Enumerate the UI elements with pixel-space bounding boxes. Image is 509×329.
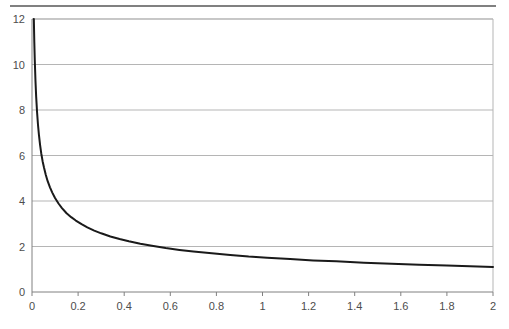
y-tick-label-8: 8 xyxy=(19,104,25,116)
y-tick-labels-group: 024681012 xyxy=(13,13,25,298)
x-tick-label-1.6: 1.6 xyxy=(393,300,408,312)
x-tick-marks-group xyxy=(32,292,493,296)
y-tick-label-2: 2 xyxy=(19,241,25,253)
x-tick-label-1.8: 1.8 xyxy=(439,300,454,312)
chart-figure: 024681012 00.20.40.60.811.21.41.61.82 xyxy=(0,0,509,329)
x-tick-label-0: 0 xyxy=(29,300,35,312)
y-tick-label-4: 4 xyxy=(19,195,25,207)
x-tick-label-0.4: 0.4 xyxy=(117,300,132,312)
y-tick-label-12: 12 xyxy=(13,13,25,25)
line-chart-svg: 024681012 00.20.40.60.811.21.41.61.82 xyxy=(0,0,509,329)
data-series-group xyxy=(34,19,493,267)
plot-area-wrapper: 024681012 00.20.40.60.811.21.41.61.82 xyxy=(0,0,509,329)
x-tick-label-0.6: 0.6 xyxy=(163,300,178,312)
x-tick-labels-group: 00.20.40.60.811.21.41.61.82 xyxy=(29,300,496,312)
x-tick-label-1.2: 1.2 xyxy=(301,300,316,312)
series-line-curve xyxy=(34,19,493,267)
x-tick-label-1: 1 xyxy=(259,300,265,312)
y-tick-label-6: 6 xyxy=(19,150,25,162)
y-tick-label-0: 0 xyxy=(19,286,25,298)
x-tick-label-0.8: 0.8 xyxy=(209,300,224,312)
x-tick-label-1.4: 1.4 xyxy=(347,300,362,312)
x-tick-label-0.2: 0.2 xyxy=(70,300,85,312)
y-tick-label-10: 10 xyxy=(13,59,25,71)
x-tick-label-2: 2 xyxy=(490,300,496,312)
gridlines-group xyxy=(32,19,493,247)
